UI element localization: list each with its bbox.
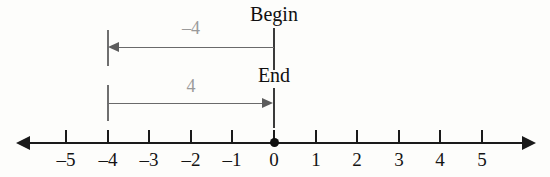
tick-label: –1	[212, 149, 252, 171]
tick-label: –4	[88, 149, 128, 171]
upper-segment-label: –4	[151, 18, 231, 38]
tick-mark	[398, 130, 400, 143]
axis-arrow-left-icon	[16, 136, 30, 150]
tick-mark	[190, 130, 192, 143]
tick-mark	[231, 130, 233, 143]
tick-label: 4	[420, 149, 460, 171]
tick-label: 3	[379, 149, 419, 171]
tick-mark	[439, 130, 441, 143]
tick-mark	[315, 130, 317, 143]
tick-label: 1	[296, 149, 336, 171]
tick-mark	[107, 130, 109, 143]
tick-mark	[148, 130, 150, 143]
tick-mark	[481, 130, 483, 143]
origin-point-marker	[270, 138, 279, 147]
number-line-figure: Begin –4 End 4 –5–4–3–2–1012345	[0, 0, 550, 177]
lower-arrowhead-right-icon	[262, 98, 273, 108]
lower-segment-label: 4	[151, 76, 231, 96]
tick-label: –5	[46, 149, 86, 171]
end-label: End	[214, 64, 334, 87]
tick-label: –2	[171, 149, 211, 171]
tick-mark	[65, 130, 67, 143]
end-marker-bar	[273, 88, 275, 128]
tick-label: 0	[254, 149, 294, 171]
tick-label: 5	[462, 149, 502, 171]
upper-measure-line	[116, 47, 274, 48]
axis-arrow-right-icon	[522, 136, 536, 150]
begin-label: Begin	[214, 3, 334, 26]
tick-mark	[356, 130, 358, 143]
tick-label: 2	[337, 149, 377, 171]
lower-measure-line	[108, 103, 266, 104]
tick-label: –3	[129, 149, 169, 171]
upper-arrowhead-left-icon	[108, 42, 119, 52]
